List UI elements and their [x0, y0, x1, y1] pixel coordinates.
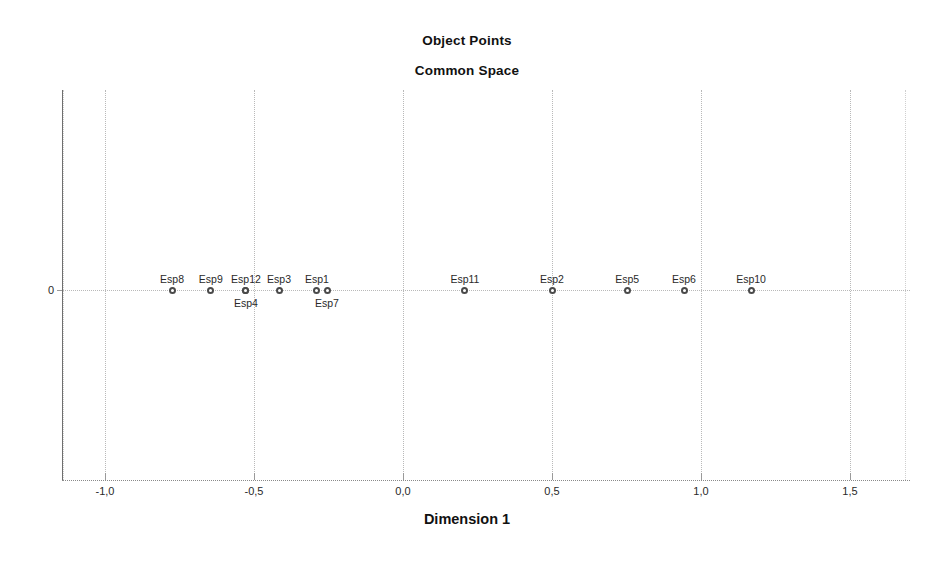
chart-subtitle: Common Space: [0, 63, 934, 78]
data-point-esp1[interactable]: [313, 287, 320, 294]
data-point-label-esp8: Esp8: [160, 273, 184, 285]
data-point-esp9[interactable]: [207, 287, 214, 294]
x-tick-label: 1,5: [842, 485, 857, 497]
gridline-y-zero: [62, 290, 910, 291]
data-point-esp11[interactable]: [461, 287, 468, 294]
data-point-esp7[interactable]: [324, 287, 331, 294]
gridline-x--0,5: [254, 90, 255, 480]
chart-title: Object Points: [0, 33, 934, 48]
x-axis-title: Dimension 1: [0, 511, 934, 527]
data-point-label-esp1: Esp1: [305, 273, 329, 285]
data-point-esp6[interactable]: [681, 287, 688, 294]
x-tick-label: -1,0: [96, 485, 115, 497]
data-point-esp10[interactable]: [748, 287, 755, 294]
data-point-esp2[interactable]: [549, 287, 556, 294]
data-point-esp4[interactable]: [242, 287, 249, 294]
x-tick-mark: [403, 473, 404, 480]
data-point-esp8[interactable]: [169, 287, 176, 294]
y-axis-line: [62, 90, 63, 480]
data-point-label-esp6: Esp6: [672, 273, 696, 285]
x-tick-mark: [254, 473, 255, 480]
right-tick-rail: [905, 90, 906, 480]
gridline-x-0,0: [403, 90, 404, 480]
data-point-esp3[interactable]: [276, 287, 283, 294]
chart-canvas: Object Points Common Space -1,0-0,50,00,…: [0, 0, 934, 565]
gridline-x-1,0: [701, 90, 702, 480]
x-tick-label: 0,5: [544, 485, 559, 497]
data-point-esp5[interactable]: [624, 287, 631, 294]
gridline-x--1,0: [105, 90, 106, 480]
x-tick-label: 0,0: [395, 485, 410, 497]
x-tick-label: -0,5: [245, 485, 264, 497]
left-tick-rail: [63, 90, 64, 480]
data-point-label-esp9: Esp9: [199, 273, 223, 285]
data-point-label-esp3: Esp3: [267, 273, 291, 285]
data-point-label-esp10: Esp10: [736, 273, 766, 285]
data-point-label-esp7: Esp7: [315, 297, 339, 309]
x-tick-mark: [701, 473, 702, 480]
gridline-x-0,5: [552, 90, 553, 480]
x-tick-mark: [552, 473, 553, 480]
x-axis-line: [62, 480, 910, 481]
x-tick-mark: [105, 473, 106, 480]
data-point-label-esp2: Esp2: [540, 273, 564, 285]
x-tick-label: 1,0: [693, 485, 708, 497]
data-point-label-esp4: Esp4: [234, 297, 258, 309]
data-point-label-esp5: Esp5: [615, 273, 639, 285]
data-point-label-esp11: Esp11: [450, 273, 479, 285]
x-tick-mark: [850, 473, 851, 480]
gridline-x-1,5: [850, 90, 851, 480]
data-point-label-esp12: Esp12: [231, 273, 261, 285]
y-tick-label: 0: [38, 284, 54, 296]
